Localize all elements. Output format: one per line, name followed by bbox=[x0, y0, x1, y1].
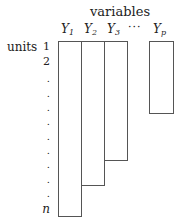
row-dot: . bbox=[40, 134, 50, 140]
row-label-1: 1 bbox=[40, 40, 50, 53]
var-label-y1: Y1 bbox=[61, 22, 74, 37]
column-yp bbox=[149, 41, 174, 114]
row-label-n: n bbox=[40, 202, 50, 216]
var-label-yp: Yp bbox=[153, 22, 166, 37]
units-label: units bbox=[7, 40, 37, 54]
var-name: Y bbox=[61, 22, 69, 36]
row-dot: . bbox=[40, 162, 50, 168]
var-sub: 2 bbox=[92, 28, 97, 37]
row-dot: . bbox=[40, 191, 50, 197]
column-y2 bbox=[81, 41, 105, 186]
row-dot: . bbox=[40, 105, 50, 111]
var-name: Y bbox=[107, 22, 115, 36]
row-dot: . bbox=[40, 119, 50, 125]
var-label-y2: Y2 bbox=[84, 22, 97, 37]
row-dot: . bbox=[40, 148, 50, 154]
row-label-2: 2 bbox=[40, 55, 50, 68]
var-name: Y bbox=[84, 22, 92, 36]
var-label-y3: Y3 bbox=[107, 22, 120, 37]
row-dot: . bbox=[40, 177, 50, 183]
column-y3 bbox=[104, 41, 128, 161]
variables-title: variables bbox=[90, 4, 150, 19]
row-dot: . bbox=[40, 91, 50, 97]
var-sub: 3 bbox=[115, 28, 120, 37]
var-sub: p bbox=[161, 28, 166, 37]
ellipsis: ··· bbox=[128, 21, 142, 34]
var-name: Y bbox=[153, 22, 161, 36]
row-dot: . bbox=[40, 76, 50, 82]
column-y1 bbox=[58, 41, 82, 217]
var-sub: 1 bbox=[69, 28, 74, 37]
